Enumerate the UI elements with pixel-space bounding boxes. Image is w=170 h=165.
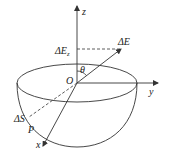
origin-label: O — [66, 75, 73, 86]
hemisphere-bowl — [17, 83, 137, 147]
delta-s-label: ΔS — [13, 113, 25, 124]
point-p-label: P — [27, 124, 34, 135]
delta-e-z-subscript: z — [66, 50, 70, 57]
y-axis-label: y — [148, 86, 154, 97]
delta-e-z-label: ΔEz — [54, 45, 70, 57]
delta-e-label: ΔE — [117, 36, 130, 47]
x-axis — [43, 83, 77, 146]
hemisphere-diagram: z y x O θ ΔE ΔEz ΔS P — [0, 0, 170, 165]
delta-e-z-main: ΔE — [54, 45, 67, 56]
theta-label: θ — [80, 64, 85, 75]
radius-to-surface-dashed — [29, 83, 77, 117]
z-axis-label: z — [81, 6, 86, 17]
x-axis-label: x — [35, 139, 41, 150]
